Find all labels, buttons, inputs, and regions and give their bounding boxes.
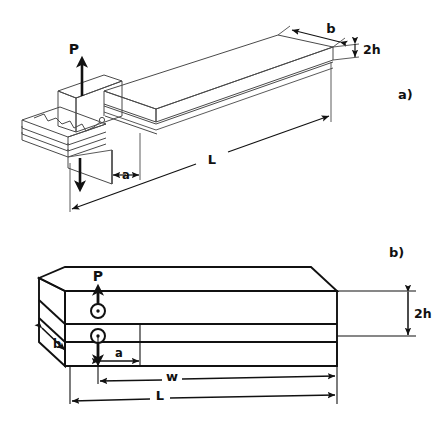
beam-lower-arm-edge-1 — [104, 62, 333, 124]
dim-2h-label: 2h — [363, 42, 381, 57]
dim-b-ext-left — [278, 26, 290, 35]
figure-root: P b 2h — [0, 0, 448, 425]
panel-a: P b 2h — [22, 21, 413, 212]
crack-tip-marker — [99, 117, 104, 122]
beam-right-face — [156, 47, 333, 122]
panel-a-label: a) — [398, 87, 413, 102]
upper-pin-center — [96, 309, 99, 312]
b-dim-L-line-left — [72, 399, 150, 401]
panel-b-label: b) — [389, 245, 404, 260]
panel-b-dim-2h: 2h — [311, 291, 432, 336]
P-up-label: P — [69, 41, 79, 57]
panel-a-load-up: P — [69, 41, 82, 96]
b-dim-L-label: L — [156, 388, 164, 403]
laminate-ply-edge-r4 — [68, 144, 106, 157]
dim-2h-ext-bot — [333, 57, 359, 60]
b-dim-L-line-right — [170, 395, 335, 398]
beam-lower-top-face — [104, 47, 333, 122]
dim-L-line-left — [72, 164, 196, 209]
lower-tab-top — [68, 150, 112, 157]
panel-b-dim-w: w — [98, 342, 337, 384]
b-dim-b-label: b — [53, 337, 61, 351]
dim-L-line-right — [228, 116, 329, 152]
beam-lower-arm-edge-2 — [104, 68, 333, 130]
b-dim-w-line-right — [182, 376, 335, 379]
dim-b-label: b — [326, 21, 335, 36]
laminate-ply-3 — [22, 132, 68, 157]
figure-svg: P b 2h — [0, 0, 448, 425]
dim-a-label: a — [122, 168, 130, 182]
panel-b: b) P — [39, 245, 432, 404]
panel-a-dim-b: b — [278, 21, 345, 47]
panel-b-dim-a: a — [98, 324, 140, 366]
b-dim-a-label: a — [115, 346, 123, 360]
panel-b-beam-solid — [39, 267, 337, 366]
b-dim-w-line-left — [100, 380, 162, 381]
b-beam-top-face — [39, 267, 337, 291]
dim-L-label: L — [208, 152, 216, 167]
laminate-ply-2 — [22, 126, 68, 151]
panel-a-dim-2h: 2h — [333, 42, 381, 60]
b-P-up-label: P — [93, 268, 103, 284]
b-beam-front-face — [65, 291, 337, 366]
panel-a-dim-L: L — [70, 62, 331, 212]
panel-a-beam-solid — [22, 35, 333, 184]
panel-b-dim-L: L — [70, 366, 337, 404]
b-dim-2h-label: 2h — [414, 306, 432, 321]
laminate-ply-edge-r2 — [68, 132, 106, 145]
laminate-ply-edge-r3 — [68, 138, 106, 151]
beam-front-face — [104, 91, 156, 122]
panel-a-dim-a: a — [112, 133, 140, 184]
b-dim-w-label: w — [166, 369, 178, 384]
